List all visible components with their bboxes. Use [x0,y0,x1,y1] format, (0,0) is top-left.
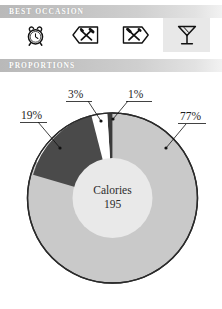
occasion-item-drinks[interactable] [163,18,210,52]
tag-fork-knife-crossed-icon [121,24,150,46]
donut-center-label: Calories [93,184,132,196]
proportions-donut-chart: Calories 195 19% 3% 1% 77% [0,76,222,309]
occasion-item-lunch[interactable] [62,18,109,52]
alarm-clock-icon [24,24,47,47]
pct-label-77: 77% [180,110,202,122]
donut-center-value: 195 [104,198,122,210]
pct-label-1: 1% [128,88,144,100]
proportions-title: PROPORTIONS [9,59,75,72]
plate-fork-knife-crossed-icon [71,24,100,46]
occasion-item-breakfast[interactable] [12,18,59,52]
occasion-item-dinner[interactable] [112,18,159,52]
martini-glass-icon [176,23,198,47]
best-occasion-icon-row [0,18,222,52]
pct-label-3: 3% [68,88,84,100]
pct-label-19: 19% [21,109,43,121]
best-occasion-title: BEST OCCASION [9,5,84,18]
